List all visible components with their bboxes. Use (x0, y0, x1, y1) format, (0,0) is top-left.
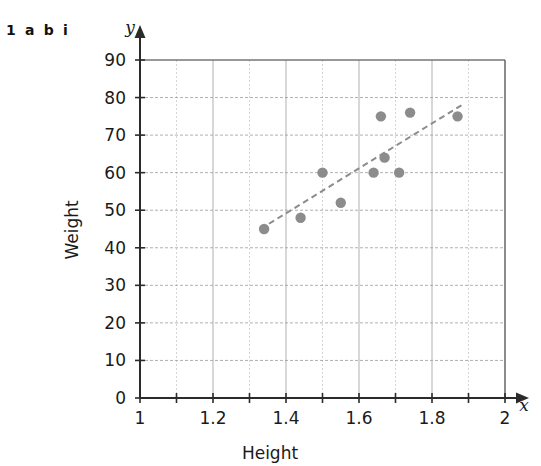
y-axis-title: Weight (62, 200, 82, 260)
data-point (259, 224, 269, 234)
x-tick-label: 1.8 (418, 408, 445, 428)
y-tick-label: 50 (104, 200, 126, 220)
scatter-chart: 11.21.41.61.82 0102030405060708090 Heigh… (0, 0, 541, 466)
y-tick-label: 30 (104, 275, 126, 295)
x-tick-label: 1.6 (345, 408, 372, 428)
y-axis-arrowhead (135, 25, 146, 38)
data-point (295, 213, 305, 223)
figure-root: 1 a b i 11.21.41.61.82 01020304050607080… (0, 0, 541, 466)
y-tick-label: 10 (104, 350, 126, 370)
x-tick-label: 2 (500, 408, 511, 428)
data-point (376, 111, 386, 121)
y-tick-label: 70 (104, 125, 126, 145)
y-tick-label: 60 (104, 163, 126, 183)
y-tick-label: 0 (115, 388, 126, 408)
data-point (452, 111, 462, 121)
data-point (379, 152, 389, 162)
x-tick-label: 1 (135, 408, 146, 428)
axis-tick-marks (135, 60, 505, 403)
y-tick-label: 80 (104, 88, 126, 108)
x-axis-title: Height (242, 443, 299, 463)
y-tick-label: 90 (104, 50, 126, 70)
data-point (336, 198, 346, 208)
y-axis-tick-labels: 0102030405060708090 (104, 50, 126, 408)
y-axis-variable-label: y (124, 17, 135, 37)
data-point (394, 167, 404, 177)
axis-lines (140, 38, 516, 398)
x-tick-label: 1.4 (272, 408, 299, 428)
data-point (368, 167, 378, 177)
y-tick-label: 40 (104, 238, 126, 258)
data-point (317, 167, 327, 177)
data-point (405, 107, 415, 117)
grid-vertical-lines (140, 60, 505, 398)
x-tick-label: 1.2 (199, 408, 226, 428)
y-tick-label: 20 (104, 313, 126, 333)
x-axis-tick-labels: 11.21.41.61.82 (135, 408, 511, 428)
